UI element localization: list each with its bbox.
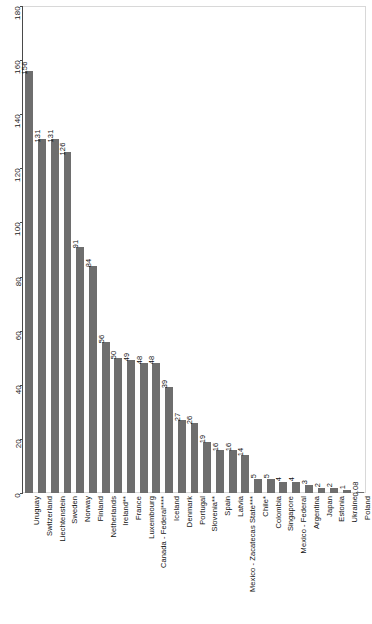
x-axis-tick-label: Estonia (337, 496, 346, 522)
bar[interactable] (254, 479, 262, 493)
y-tick-label: 20 (14, 439, 23, 448)
bar-group[interactable]: 4 (290, 6, 303, 493)
bar-group[interactable]: 5 (264, 6, 277, 493)
x-axis-tick-label: Mexico - Federal (299, 496, 308, 553)
bar-group[interactable]: 2 (315, 6, 328, 493)
x-axis-tick-label: Latvia (236, 496, 245, 517)
bar-group[interactable]: 26 (188, 6, 201, 493)
x-axis-tick-label: Uruguay (32, 496, 41, 525)
bar[interactable] (76, 247, 84, 493)
x-axis-tick-label: Slovenia** (210, 496, 219, 532)
y-tick-label: 80 (14, 277, 23, 286)
x-axis-tick-label: Poland (363, 496, 372, 520)
bar-value-label: 2 (313, 482, 322, 486)
bar-value-label: 84 (84, 258, 93, 267)
bar-value-label: 91 (71, 240, 80, 249)
y-tick-label: 0 (14, 493, 23, 498)
bar[interactable] (38, 139, 46, 493)
bar-value-label: 48 (147, 356, 156, 365)
bar-value-label: 16 (224, 442, 233, 451)
bar-value-label: 27 (173, 413, 182, 422)
bar-group[interactable]: 16 (214, 6, 227, 493)
bar[interactable] (216, 450, 224, 493)
bar-value-label: 50 (109, 350, 118, 359)
bar[interactable] (318, 488, 326, 493)
bars-container: 1561311311269184565049484839272619161614… (23, 6, 366, 493)
y-tick-label: 60 (14, 331, 23, 340)
bar-value-label: 19 (198, 434, 207, 443)
bar-group[interactable]: 48 (150, 6, 163, 493)
x-axis-labels: UruguaySwitzerlandLiechtensteinSwedenNor… (23, 494, 366, 622)
bar[interactable] (330, 488, 338, 493)
bar-value-label: 126 (58, 143, 67, 156)
x-axis-tick-label: Liechtenstein (58, 496, 67, 542)
bar-value-label: 4 (274, 477, 283, 481)
bar[interactable] (292, 482, 300, 493)
bar-value-label: 156 (20, 62, 29, 75)
bar-value-label: 48 (135, 356, 144, 365)
bar[interactable] (267, 479, 275, 493)
x-axis-tick-label: Ireland** (121, 496, 130, 526)
bar-value-label: 56 (97, 334, 106, 343)
bar[interactable] (203, 442, 211, 493)
bar-group[interactable]: 4 (277, 6, 290, 493)
bar-group[interactable]: 131 (48, 6, 61, 493)
y-tick-label: 120 (14, 168, 23, 182)
bar-group[interactable]: 156 (23, 6, 36, 493)
bar-group[interactable]: 5 (252, 6, 265, 493)
bar-group[interactable]: 3 (302, 6, 315, 493)
bar[interactable] (64, 152, 72, 493)
bar[interactable] (127, 360, 135, 493)
bar-group[interactable]: 16 (226, 6, 239, 493)
x-axis-tick-label: Ukraine (350, 496, 359, 523)
bar[interactable] (89, 266, 97, 493)
bar-value-label: 16 (211, 442, 220, 451)
bar[interactable] (305, 485, 313, 493)
bar[interactable] (140, 363, 148, 493)
bar-group[interactable]: 0.08 (353, 6, 366, 493)
bar[interactable] (343, 490, 351, 493)
bar-group[interactable]: 19 (201, 6, 214, 493)
x-axis-tick-label: Luxembourg (147, 496, 156, 539)
bar-group[interactable]: 131 (36, 6, 49, 493)
bar-group[interactable]: 126 (61, 6, 74, 493)
bar-chart: 020406080100120140160180 156131131126918… (0, 0, 372, 624)
x-axis-tick-label: Iceland (172, 496, 181, 521)
x-axis-tick-label: Sweden (70, 496, 79, 524)
y-tick-label: 100 (14, 222, 23, 236)
bar[interactable] (178, 420, 186, 493)
x-axis-tick-label: Japan (325, 496, 334, 517)
bar-value-label: 49 (122, 353, 131, 362)
bar-value-label: 3 (300, 480, 309, 484)
y-axis: 020406080100120140160180 (0, 6, 23, 493)
bar-group[interactable]: 1 (341, 6, 354, 493)
bar[interactable] (102, 342, 110, 494)
bar[interactable] (114, 358, 122, 493)
x-axis-tick-label: France (134, 496, 143, 520)
bar-value-label: 14 (236, 448, 245, 457)
bar-group[interactable]: 84 (87, 6, 100, 493)
bar-group[interactable]: 48 (137, 6, 150, 493)
x-axis-tick-label: Chile* (261, 496, 270, 517)
x-axis-tick-label: Portugal (198, 496, 207, 525)
bar-value-label: 39 (160, 380, 169, 389)
bar-group[interactable]: 50 (112, 6, 125, 493)
bar[interactable] (191, 423, 199, 493)
x-axis-tick-label: Finland (96, 496, 105, 521)
bar-group[interactable]: 56 (99, 6, 112, 493)
x-axis-tick-label: Colombia (274, 496, 283, 528)
bar[interactable] (51, 139, 59, 493)
bar-value-label: 1 (338, 485, 347, 489)
x-axis-tick-label: Norway (83, 496, 92, 522)
bar[interactable] (279, 482, 287, 493)
bar-value-label: 2 (325, 482, 334, 486)
bar-group[interactable]: 14 (239, 6, 252, 493)
bar-group[interactable]: 91 (74, 6, 87, 493)
bar-value-label: 131 (33, 129, 42, 142)
bar-value-label: 26 (185, 415, 194, 424)
y-tick-label: 140 (14, 114, 23, 128)
bar-group[interactable]: 2 (328, 6, 341, 493)
x-axis-tick-label: Netherlands (109, 496, 118, 538)
bar-group[interactable]: 49 (125, 6, 138, 493)
bar[interactable] (165, 387, 173, 493)
